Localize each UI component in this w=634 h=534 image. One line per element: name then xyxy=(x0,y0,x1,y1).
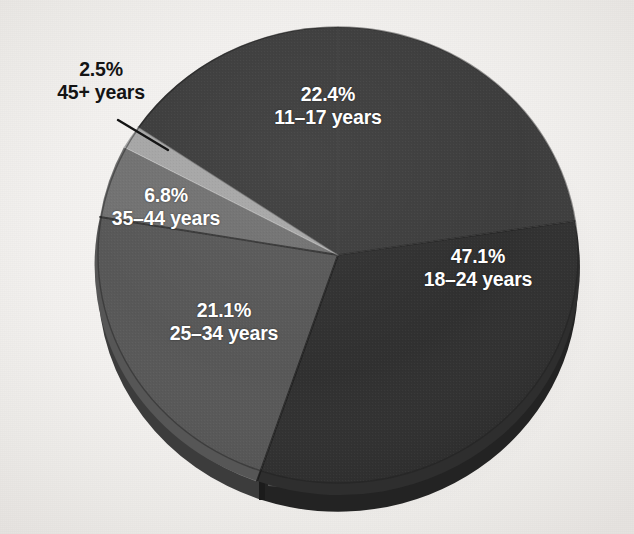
slice-category-25-34: 25–34 years xyxy=(118,322,330,345)
slice-label-35-44: 6.8% 35–44 years xyxy=(60,184,272,230)
slice-percent-35-44: 6.8% xyxy=(60,184,272,207)
slice-label-18-24: 47.1% 18–24 years xyxy=(372,245,584,291)
slice-category-35-44: 35–44 years xyxy=(60,207,272,230)
slice-percent-11-17: 22.4% xyxy=(222,83,434,106)
slice-percent-18-24: 47.1% xyxy=(372,245,584,268)
slice-label-45-plus: 2.5% 45+ years xyxy=(6,58,196,104)
slice-category-18-24: 18–24 years xyxy=(372,268,584,291)
slice-percent-25-34: 21.1% xyxy=(118,299,330,322)
slice-label-25-34: 21.1% 25–34 years xyxy=(118,299,330,345)
slice-label-11-17: 22.4% 11–17 years xyxy=(222,83,434,129)
slice-percent-45-plus: 2.5% xyxy=(6,58,196,81)
slice-category-45-plus: 45+ years xyxy=(6,81,196,104)
slice-category-11-17: 11–17 years xyxy=(222,106,434,129)
pie-chart-figure: 2.5% 45+ years 6.8% 35–44 years 21.1% 25… xyxy=(0,0,634,534)
